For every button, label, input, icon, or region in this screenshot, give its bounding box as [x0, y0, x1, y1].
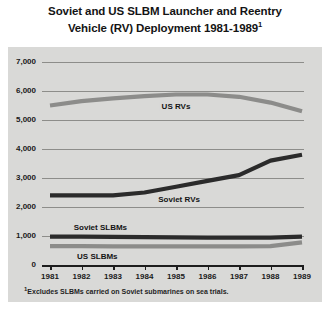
plot-area: [8, 47, 322, 302]
x-tick-label-1981: 1981: [33, 272, 67, 281]
x-tick-1987: [239, 266, 241, 270]
x-tick-1984: [145, 266, 147, 270]
chart-title-line2: Vehicle (RV) Deployment 1981-1989: [68, 22, 258, 34]
y-tick-label-1000: 1,000: [0, 232, 36, 240]
y-tick-label-7000: 7,000: [0, 58, 36, 66]
series-label-us-rvs: US RVs: [160, 102, 193, 111]
x-tick-label-1985: 1985: [159, 272, 193, 281]
y-tick-label-2000: 2,000: [0, 203, 36, 211]
gridline-6000: [42, 91, 304, 92]
x-tick-label-1983: 1983: [96, 272, 130, 281]
x-tick-label-1982: 1982: [65, 272, 99, 281]
gridline-7000: [42, 62, 304, 63]
chart-title-footnote-marker: 1: [258, 20, 262, 29]
gridline-5000: [42, 120, 304, 121]
x-tick-label-1986: 1986: [191, 272, 225, 281]
chart-footnote: 1Excludes SLBMs carried on Soviet submar…: [24, 286, 228, 295]
x-tick-1983: [113, 266, 115, 270]
y-tick-label-4000: 4,000: [0, 145, 36, 153]
x-tick-1981: [50, 266, 52, 270]
chart-title: Soviet and US SLBM Launcher and Reentry …: [0, 4, 330, 35]
x-tick-label-1987: 1987: [222, 272, 256, 281]
gridline-4000: [42, 149, 304, 150]
series-label-soviet-slbms: Soviet SLBMs: [72, 223, 129, 232]
x-tick-label-1984: 1984: [128, 272, 162, 281]
x-tick-1988: [271, 266, 273, 270]
x-tick-1989: [302, 266, 304, 270]
x-tick-1985: [176, 266, 178, 270]
x-tick-1982: [82, 266, 84, 270]
y-tick-label-6000: 6,000: [0, 87, 36, 95]
y-tick-label-0: 0: [0, 261, 36, 269]
x-tick-1986: [208, 266, 210, 270]
series-label-soviet-rvs: Soviet RVs: [156, 195, 202, 204]
y-tick-label-3000: 3,000: [0, 174, 36, 182]
chart-figure: Soviet and US SLBM Launcher and Reentry …: [0, 0, 330, 309]
gridline-3000: [42, 178, 304, 179]
chart-title-line1: Soviet and US SLBM Launcher and Reentry: [48, 5, 282, 17]
footnote-text: Excludes SLBMs carried on Soviet submari…: [27, 288, 228, 295]
gridline-2000: [42, 207, 304, 208]
x-tick-label-1989: 1989: [285, 272, 319, 281]
series-label-us-slbms: US SLBMs: [75, 252, 119, 261]
y-tick-label-5000: 5,000: [0, 116, 36, 124]
gridline-1000: [42, 236, 304, 237]
x-tick-label-1988: 1988: [254, 272, 288, 281]
